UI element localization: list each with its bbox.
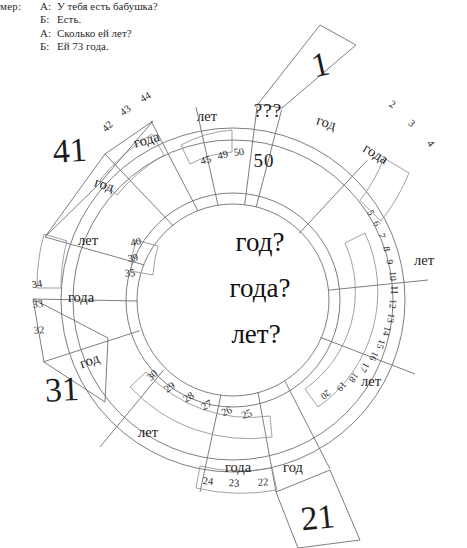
outer-number-44: 44 [138,89,153,104]
outer-number-33: 33 [32,298,44,310]
inner-ring-word-goda-4: года [132,128,162,151]
outer-number-6: 6 [371,220,382,228]
center-line-1: год? [236,227,285,257]
inner-ring-word-let-3: лет [138,424,159,440]
outer-number-50: 50 [233,146,245,158]
outer-number-20: 20 [318,388,332,402]
inner-ring-word-god-2: год [283,459,303,475]
outer-number-15: 15 [374,338,387,350]
inner-ring-word-god-1: год [315,112,339,134]
outer-number-22: 22 [257,476,268,488]
inner-ring-word-let-4: лет [78,232,99,248]
outer-number-18: 18 [347,371,361,385]
outer-number-32: 32 [33,324,44,336]
outer-number-11: 11 [389,285,399,294]
outer-number-10: 10 [387,271,398,281]
outer-number-45: 45 [199,153,212,166]
outer-number-35: 35 [124,267,135,279]
outer-number-30: 30 [145,368,160,383]
center-line-2: года? [230,273,291,303]
outer-number-9: 9 [385,259,396,265]
outer-number-13: 13 [385,313,396,324]
outer-number-28: 28 [181,390,196,405]
outer-number-24: 24 [202,475,214,487]
outer-number-34: 34 [31,278,44,291]
outer-number-5: 5 [365,208,376,217]
outer-number-3: 3 [406,117,417,129]
inner-ring-word-goda-1: года [361,140,392,168]
outer-number-17: 17 [358,361,372,374]
outer-number-42: 42 [100,119,115,134]
big-number-31: 31 [44,370,80,409]
big-number-41: 41 [51,131,87,170]
outer-number-39: 39 [127,252,139,264]
inner-ring-word-unknown: ??? [254,100,282,121]
inner-ring-word-let-2: лет [361,373,382,389]
outer-number-23: 23 [229,477,240,488]
inner-ring-word-goda-3: года [68,289,95,305]
outer-number-unknown: 50 [254,150,275,171]
outer-number-25: 25 [240,407,254,421]
outer-number-8: 8 [381,245,392,252]
grammar-wheel-page: имер:А:У тебя есть бабушка? Б:Есть. А:Ск… [0,0,467,548]
big-number-21: 21 [299,497,337,537]
outer-number-12: 12 [387,299,398,309]
outer-number-4: 4 [425,138,437,150]
number-agreement-wheel: год? года? лет? год года лет лет год год… [0,0,467,548]
outer-number-27: 27 [199,398,213,413]
big-number-box-1 [258,25,356,108]
outer-number-16: 16 [367,350,380,363]
inner-ring-word-let-1: лет [414,252,435,268]
big-number-1: 1 [308,44,333,84]
outer-number-2: 2 [387,98,397,110]
inner-ring-word-goda-2: года [225,459,252,475]
center-line-3: лет? [231,319,280,349]
outer-number-40: 40 [130,236,142,249]
inner-ring-word-god-3: год [77,349,102,371]
divider [299,160,367,233]
inner-ring-word-let-5: лет [197,108,218,124]
outer-number-43: 43 [118,103,133,118]
outer-number-49: 49 [216,148,229,161]
outer-number-14: 14 [381,325,393,337]
